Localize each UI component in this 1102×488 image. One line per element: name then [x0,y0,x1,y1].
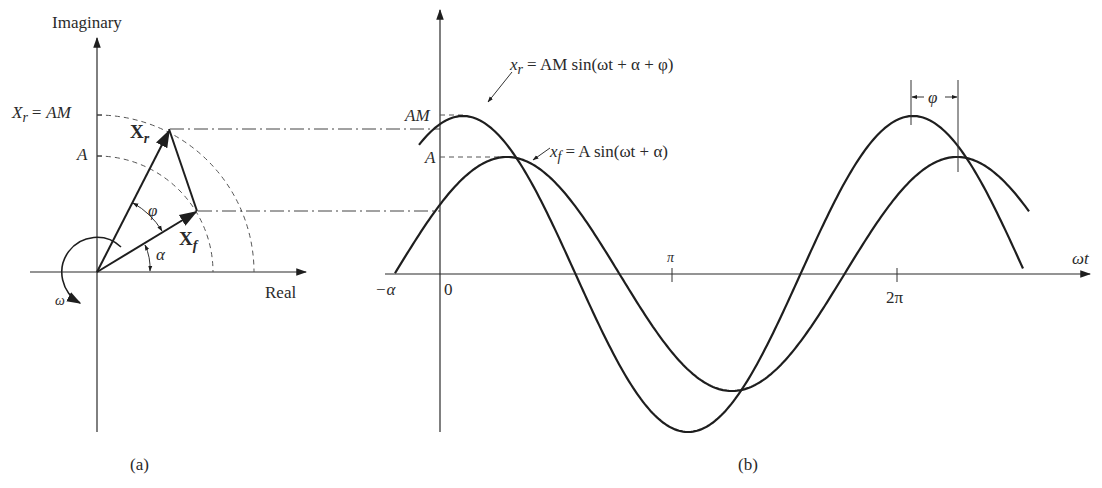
tick-label-pi: π [667,250,675,265]
caption-a: (a) [130,455,149,474]
equation-xf: xf= A sin(ωt + α) [549,142,668,164]
angle-phi-label: φ [148,201,157,220]
leader-xr [488,72,512,102]
angle-alpha-arc [145,245,150,271]
equation-xr: xr= AM sin(ωt + α + φ) [509,55,674,77]
imaginary-axis-label: Imaginary [52,13,122,32]
panel-b-waveforms: AM A xr= AM sin(ωt + α + φ) xf= A sin(ωt… [375,10,1090,474]
label-A-b: A [424,148,436,167]
label-AM: AM [404,106,430,125]
leader-xf [533,148,550,160]
caption-b: (b) [738,455,758,474]
arc-amplitude-AM [97,115,254,272]
label-xr-equals-AM: Xr= AM [11,103,72,125]
rotation-omega-label: ω [55,293,65,308]
rotation-omega-arrow [62,237,121,303]
phase-marker-label: φ [928,88,937,107]
vector-difference-side [169,129,197,211]
tick-label-zero: 0 [444,280,453,299]
phasor-figure: Imaginary Real Xr= AM A Xr Xf φ α ω (a) [0,0,1102,488]
label-A: A [76,145,88,164]
vector-xf-label: Xf [179,228,199,253]
angle-alpha-label: α [156,245,166,264]
tick-label-neg-alpha: −α [375,280,396,299]
tick-label-2pi: 2π [886,288,904,307]
wt-axis-label: ωt [1072,249,1090,268]
real-axis-label: Real [265,283,296,302]
vector-xr-label: Xr [130,121,150,146]
panel-a-phasor-diagram: Imaginary Real Xr= AM A Xr Xf φ α ω (a) [11,13,306,474]
